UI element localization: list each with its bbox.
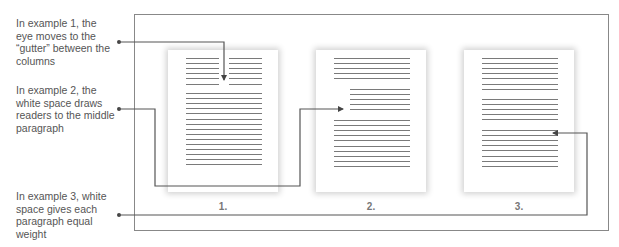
- connector-arrow-2: [119, 109, 343, 186]
- connector-arrow-3: [119, 133, 587, 215]
- connector-arrow-1: [119, 42, 224, 80]
- connector-lines: [0, 0, 619, 247]
